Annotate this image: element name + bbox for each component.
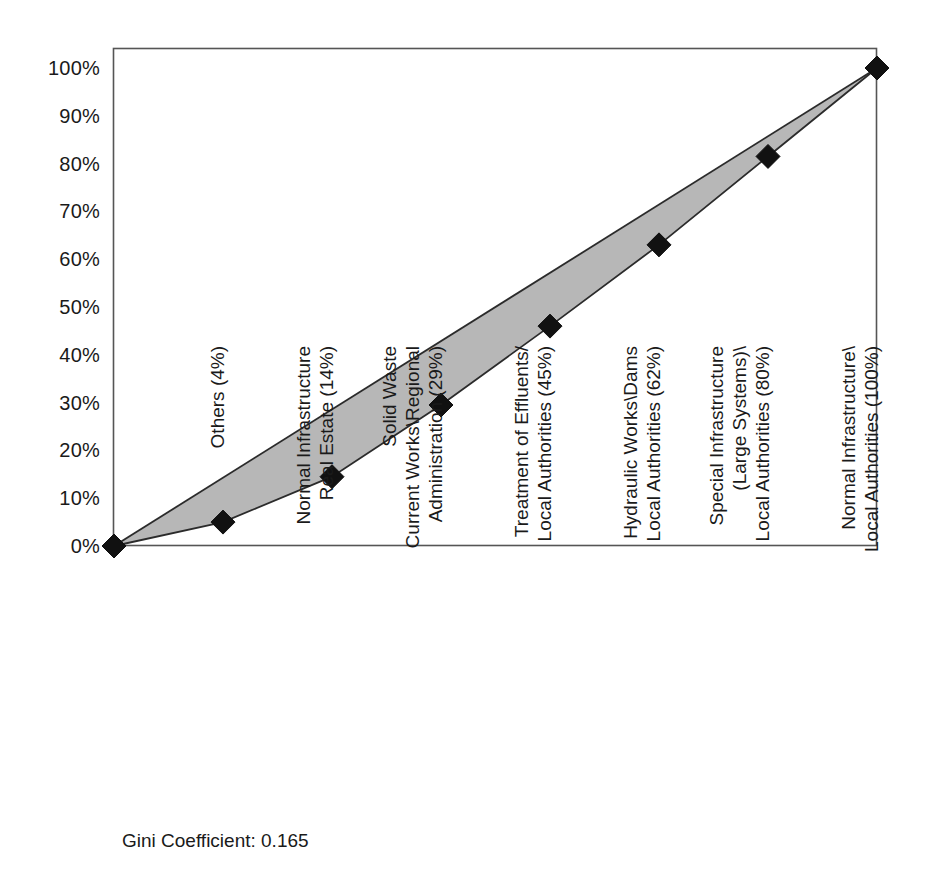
x-axis-category-label-line: Others (4%) bbox=[206, 346, 229, 576]
x-axis-category-label-line: Normal Infrastructure\ bbox=[837, 346, 860, 576]
x-axis-category-label-line: Local Authorities (62%) bbox=[642, 346, 665, 576]
x-axis-category-label: Normal InfrastructureReal Estate (14%) bbox=[292, 346, 338, 576]
x-axis-category-label-line: Normal Infrastructure bbox=[292, 346, 315, 576]
x-axis-category-label-line: (Large Systems)\ bbox=[728, 346, 751, 576]
x-axis-category-label-line: Solid Waste bbox=[378, 346, 401, 576]
x-axis-category-label-line: Local Authorities (45%) bbox=[533, 346, 556, 576]
x-axis-category-label: Special Infrastructure(Large Systems)\Lo… bbox=[705, 346, 774, 576]
x-axis-category-label-line: Hydraulic Works\Dams bbox=[619, 346, 642, 576]
x-axis-category-label-line: Current Works\Regional bbox=[401, 346, 424, 576]
x-axis-category-label: Solid WasteCurrent Works\RegionalAdminis… bbox=[378, 346, 447, 576]
x-axis-category-label-line: Special Infrastructure bbox=[705, 346, 728, 576]
x-axis-category-label: Treatment of Effluents/Local Authorities… bbox=[510, 346, 556, 576]
lorenz-curve-chart: 100%90%80%70%60%50%40%30%20%10%0% Others… bbox=[0, 0, 937, 880]
gini-coefficient-note: Gini Coefficient: 0.165 bbox=[122, 830, 309, 852]
x-axis-category-labels: Others (4%)Normal InfrastructureReal Est… bbox=[0, 0, 937, 880]
x-axis-category-label-line: Treatment of Effluents/ bbox=[510, 346, 533, 576]
x-axis-category-label-line: Administration (29%) bbox=[424, 346, 447, 576]
x-axis-category-label-line: Local Authorities (100%) bbox=[860, 346, 883, 576]
x-axis-category-label-line: Real Estate (14%) bbox=[315, 346, 338, 576]
x-axis-category-label: Hydraulic Works\DamsLocal Authorities (6… bbox=[619, 346, 665, 576]
x-axis-category-label-line: Local Authorities (80%) bbox=[751, 346, 774, 576]
x-axis-category-label: Normal Infrastructure\Local Authorities … bbox=[837, 346, 883, 576]
x-axis-category-label: Others (4%) bbox=[206, 346, 229, 576]
